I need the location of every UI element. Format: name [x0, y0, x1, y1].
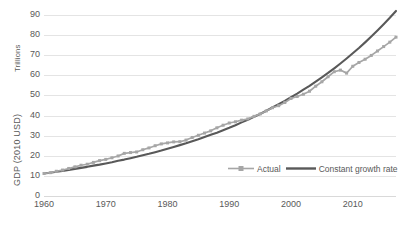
data-point-marker [351, 65, 354, 68]
legend-swatch [286, 164, 316, 174]
data-point-marker [55, 170, 58, 173]
data-point-marker [376, 50, 379, 53]
y-tick-label: 20 [6, 151, 40, 160]
data-point-marker [123, 152, 126, 155]
data-point-marker [209, 129, 212, 132]
data-point-marker [49, 171, 52, 174]
y-tick-label: 40 [6, 111, 40, 120]
gdp-growth-chart: Trillions GDP (2010 USD) 908070605040302… [0, 0, 404, 232]
y-axis-tick-labels: 9080706050403020100 [4, 15, 40, 196]
data-point-marker [314, 85, 317, 88]
data-point-marker [67, 167, 70, 170]
data-point-marker [240, 119, 243, 122]
data-point-marker [252, 115, 255, 118]
data-point-marker [370, 54, 373, 57]
data-point-marker [166, 141, 169, 144]
data-point-marker [259, 112, 262, 115]
data-point-marker [271, 106, 274, 109]
data-point-marker [277, 104, 280, 107]
data-point-marker [117, 154, 120, 157]
series-line-constant-growth [44, 11, 396, 174]
y-tick-label: 30 [6, 131, 40, 140]
data-point-marker [129, 151, 132, 154]
series-line-actual [44, 37, 396, 173]
data-point-marker [185, 139, 188, 142]
data-point-marker [147, 146, 150, 149]
data-point-marker [327, 75, 330, 78]
y-tick-label: 80 [6, 30, 40, 39]
data-point-marker [160, 142, 163, 145]
data-point-marker [234, 120, 237, 123]
data-point-marker [197, 134, 200, 137]
data-point-marker [283, 101, 286, 104]
data-point-marker [98, 159, 101, 162]
data-point-marker [141, 148, 144, 151]
data-point-marker [215, 126, 218, 129]
data-point-marker [339, 69, 342, 72]
x-tick-label: 1960 [34, 199, 54, 209]
chart-legend: ActualConstant growth rate [228, 164, 398, 174]
data-point-marker [345, 72, 348, 75]
data-point-marker [43, 172, 46, 175]
data-point-marker [320, 80, 323, 83]
data-point-marker [135, 150, 138, 153]
data-point-marker [382, 45, 385, 48]
data-point-marker [154, 144, 157, 147]
data-point-marker [61, 169, 64, 172]
x-tick-label: 1970 [96, 199, 116, 209]
data-point-marker [203, 132, 206, 135]
data-point-marker [222, 124, 225, 127]
x-tick-label: 1990 [219, 199, 239, 209]
legend-label: Constant growth rate [319, 165, 398, 174]
data-point-marker [290, 97, 293, 100]
series-markers-actual [43, 36, 398, 175]
x-tick-label: 2000 [281, 199, 301, 209]
legend-label: Actual [257, 165, 281, 174]
data-point-marker [296, 95, 299, 98]
data-point-marker [86, 163, 89, 166]
y-tick-label: 90 [6, 10, 40, 19]
data-point-marker [73, 165, 76, 168]
data-point-marker [191, 136, 194, 139]
data-point-marker [92, 161, 95, 164]
data-point-marker [395, 36, 398, 39]
x-axis-tick-labels: 196019701980199020002010 [44, 199, 396, 215]
gridline [44, 196, 396, 197]
legend-entry[interactable]: Actual [228, 164, 281, 174]
y-tick-label: 10 [6, 171, 40, 180]
data-point-marker [388, 41, 391, 44]
data-point-marker [178, 140, 181, 143]
data-point-marker [308, 90, 311, 93]
data-point-marker [333, 70, 336, 73]
data-point-marker [364, 58, 367, 61]
data-point-marker [104, 158, 107, 161]
data-point-marker [110, 156, 113, 159]
data-point-marker [357, 61, 360, 64]
data-point-marker [302, 93, 305, 96]
legend-entry[interactable]: Constant growth rate [286, 164, 398, 174]
y-tick-label: 70 [6, 50, 40, 59]
data-point-marker [80, 164, 83, 167]
data-point-marker [265, 109, 268, 112]
x-tick-label: 1980 [157, 199, 177, 209]
y-tick-label: 50 [6, 90, 40, 99]
x-tick-label: 2010 [343, 199, 363, 209]
legend-swatch [228, 164, 254, 174]
data-point-marker [172, 140, 175, 143]
data-point-marker [228, 122, 231, 125]
data-point-marker [246, 117, 249, 120]
y-tick-label: 60 [6, 70, 40, 79]
